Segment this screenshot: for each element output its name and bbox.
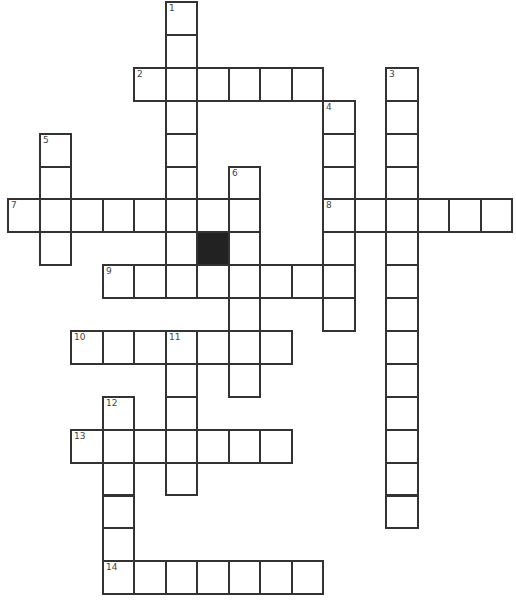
crossword-cell[interactable] (228, 67, 261, 102)
crossword-cell[interactable] (39, 231, 72, 266)
crossword-cell[interactable] (39, 166, 72, 200)
crossword-cell[interactable] (228, 297, 261, 332)
crossword-cell[interactable] (228, 231, 261, 266)
crossword-cell[interactable] (133, 198, 167, 233)
crossword-cell[interactable] (165, 67, 198, 102)
crossword-cell[interactable]: 1 (165, 1, 198, 36)
crossword-cell[interactable] (165, 34, 198, 69)
crossword-cell[interactable]: 12 (102, 396, 135, 431)
crossword-cell[interactable] (259, 330, 293, 365)
crossword-cell[interactable] (196, 264, 230, 299)
crossword-cell[interactable] (480, 198, 513, 233)
clue-number: 7 (11, 200, 17, 210)
crossword-cell[interactable] (102, 495, 135, 529)
crossword-cell[interactable]: 8 (322, 198, 356, 233)
crossword-cell[interactable] (228, 330, 261, 365)
crossword-cell[interactable] (165, 133, 198, 168)
crossword-cell[interactable] (385, 198, 419, 233)
crossword-cell[interactable] (228, 264, 261, 299)
clue-number: 6 (232, 168, 238, 178)
crossword-cell[interactable] (385, 363, 419, 398)
crossword-cell[interactable] (322, 166, 356, 200)
crossword-cell[interactable] (133, 264, 167, 299)
crossword-cell[interactable] (417, 198, 450, 233)
crossword-cell[interactable] (165, 166, 198, 200)
crossword-cell[interactable] (133, 330, 167, 365)
crossword-cell[interactable] (291, 560, 324, 595)
crossword-cell[interactable] (228, 560, 261, 595)
crossword-cell[interactable] (259, 560, 293, 595)
crossword-cell[interactable] (259, 264, 293, 299)
crossword-cell[interactable] (70, 198, 104, 233)
crossword-cell[interactable] (102, 330, 135, 365)
crossword-cell[interactable] (165, 198, 198, 233)
crossword-cell[interactable] (196, 330, 230, 365)
crossword-cell[interactable] (322, 133, 356, 168)
crossword-cell[interactable] (165, 429, 198, 464)
clue-number: 13 (74, 431, 85, 441)
crossword-cell[interactable]: 6 (228, 166, 261, 200)
crossword-cell[interactable] (322, 264, 356, 299)
crossword-cell[interactable]: 2 (133, 67, 167, 102)
crossword-cell[interactable]: 11 (165, 330, 198, 365)
crossword-cell[interactable] (385, 133, 419, 168)
crossword-cell[interactable] (385, 429, 419, 464)
crossword-cell[interactable] (165, 264, 198, 299)
crossword-cell[interactable] (165, 363, 198, 398)
crossword-cell[interactable] (291, 264, 324, 299)
crossword-cell[interactable] (385, 264, 419, 299)
crossword-cell[interactable]: 5 (39, 133, 72, 168)
crossword-cell[interactable] (448, 198, 482, 233)
crossword-cell[interactable] (354, 198, 387, 233)
crossword-cell[interactable]: 10 (70, 330, 104, 365)
crossword-cell[interactable] (259, 429, 293, 464)
clue-number: 8 (326, 200, 332, 210)
crossword-cell[interactable] (385, 462, 419, 496)
crossword-cell[interactable] (385, 495, 419, 529)
crossword-cell[interactable] (165, 231, 198, 266)
clue-number: 2 (137, 69, 143, 79)
clue-number: 1 (169, 3, 175, 13)
crossword-cell[interactable] (228, 198, 261, 233)
crossword-cell[interactable] (196, 560, 230, 595)
crossword-cell[interactable] (39, 198, 72, 233)
crossword-cell[interactable] (259, 67, 293, 102)
crossword-cell[interactable] (165, 560, 198, 595)
crossword-cell[interactable] (291, 67, 324, 102)
crossword-cell[interactable] (165, 462, 198, 496)
crossword-cell[interactable]: 13 (70, 429, 104, 464)
crossword-cell[interactable] (228, 429, 261, 464)
crossword-cell[interactable]: 9 (102, 264, 135, 299)
clue-number: 3 (389, 69, 395, 79)
crossword-cell[interactable] (385, 100, 419, 135)
clue-number: 11 (169, 332, 180, 342)
clue-number: 10 (74, 332, 85, 342)
crossword-cell[interactable] (385, 297, 419, 332)
crossword-cell[interactable] (322, 231, 356, 266)
crossword-cell[interactable] (385, 396, 419, 431)
crossword-cell[interactable] (385, 231, 419, 266)
crossword-cell[interactable] (322, 297, 356, 332)
crossword-cell[interactable] (196, 429, 230, 464)
clue-number: 14 (106, 562, 117, 572)
crossword-cell[interactable] (102, 198, 135, 233)
crossword-cell[interactable] (228, 363, 261, 398)
crossword-cell[interactable] (165, 100, 198, 135)
crossword-cell[interactable] (196, 67, 230, 102)
crossword-cell[interactable] (196, 198, 230, 233)
crossword-cell[interactable] (102, 462, 135, 496)
crossword-grid: 1234856791011121413 (0, 0, 516, 601)
crossword-cell[interactable] (102, 527, 135, 562)
crossword-cell[interactable] (133, 560, 167, 595)
crossword-cell[interactable] (102, 429, 135, 464)
crossword-cell[interactable]: 7 (7, 198, 41, 233)
crossword-cell[interactable]: 4 (322, 100, 356, 135)
crossword-cell[interactable] (385, 330, 419, 365)
crossword-cell[interactable] (165, 396, 198, 431)
crossword-cell[interactable]: 3 (385, 67, 419, 102)
block-cell (196, 231, 230, 266)
clue-number: 12 (106, 398, 117, 408)
crossword-cell[interactable] (133, 429, 167, 464)
crossword-cell[interactable] (385, 166, 419, 200)
crossword-cell[interactable]: 14 (102, 560, 135, 595)
